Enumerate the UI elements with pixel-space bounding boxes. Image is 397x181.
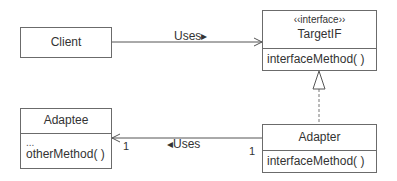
stereotype-label: ‹‹interface›› xyxy=(263,14,376,26)
multiplicity-adaptee: 1 xyxy=(123,140,129,152)
class-name: TargetIF xyxy=(263,26,376,42)
methods-compartment: interfaceMethod( ) xyxy=(263,48,376,70)
class-adaptee[interactable]: Adaptee ... otherMethod( ) xyxy=(20,108,112,169)
class-target-interface[interactable]: ‹‹interface›› TargetIF interfaceMethod( … xyxy=(262,10,377,71)
method-item: interfaceMethod( ) xyxy=(267,52,364,66)
class-client[interactable]: Client xyxy=(20,27,112,58)
class-name: Client xyxy=(21,28,111,57)
class-header: ‹‹interface›› TargetIF xyxy=(263,11,376,48)
class-name: Adaptee xyxy=(21,109,111,133)
uses-label-adapter-adaptee: ◂Uses xyxy=(167,137,200,151)
method-item: otherMethod( ) xyxy=(26,148,111,161)
methods-compartment: interfaceMethod( ) xyxy=(263,150,376,172)
uses-label-client-target: Uses▸ xyxy=(174,29,207,43)
hollow-triangle-arrowhead-icon xyxy=(313,71,325,89)
compartment: ... otherMethod( ) xyxy=(21,133,111,161)
class-name: Adapter xyxy=(263,125,376,150)
method-item: interfaceMethod( ) xyxy=(267,154,364,168)
class-adapter[interactable]: Adapter interfaceMethod( ) xyxy=(262,124,377,173)
multiplicity-adapter: 1 xyxy=(249,145,255,157)
